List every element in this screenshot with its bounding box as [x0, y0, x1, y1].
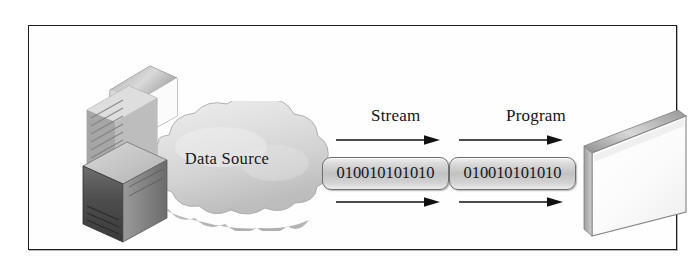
- program-screen-icon: [578, 108, 690, 244]
- diagram-canvas: Data Source: [0, 0, 699, 267]
- diagram-frame: Data Source: [28, 25, 677, 250]
- stream-digits: 010010101010: [337, 165, 435, 182]
- flow-arrow-bottom-left: [336, 196, 440, 208]
- stream-block: 010010101010: [322, 157, 449, 190]
- program-label: Program: [506, 106, 566, 126]
- stream-label: Stream: [371, 106, 420, 126]
- data-source-server-icon: [77, 56, 207, 251]
- flow-arrow-top-left: [336, 134, 440, 146]
- stream-block: 010010101010: [449, 157, 576, 190]
- stream-digits: 010010101010: [464, 165, 562, 182]
- flow-arrow-bottom-right: [459, 196, 563, 208]
- flow-arrow-top-right: [459, 134, 563, 146]
